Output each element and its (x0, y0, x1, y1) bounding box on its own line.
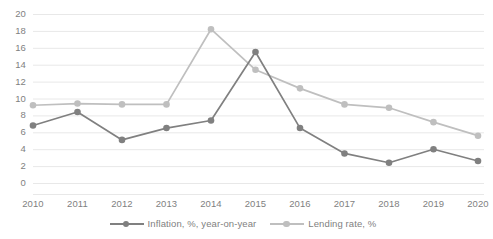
y-axis-tick-label: 14 (2, 60, 26, 70)
data-point[interactable] (252, 66, 259, 73)
y-axis-tick-label: 20 (2, 9, 26, 19)
data-point[interactable] (252, 49, 259, 56)
y-axis-tick-label: 0 (2, 178, 26, 188)
data-point[interactable] (163, 125, 170, 132)
data-point[interactable] (74, 109, 81, 116)
chart-legend: Inflation, %, year-on-yearLending rate, … (0, 218, 486, 229)
legend-label: Lending rate, % (308, 218, 376, 229)
data-point[interactable] (297, 125, 304, 132)
data-point[interactable] (341, 150, 348, 157)
x-axis-tick-label: 2013 (147, 199, 187, 209)
x-axis-tick-label: 2011 (58, 199, 98, 209)
y-axis-tick-label: 12 (2, 77, 26, 87)
x-axis-tick-label: 2020 (458, 199, 493, 209)
x-axis-tick-label: 2015 (236, 199, 276, 209)
y-axis-tick-label: 4 (2, 144, 26, 154)
data-point[interactable] (163, 101, 170, 108)
y-axis-tick-label: 8 (2, 110, 26, 120)
x-axis-tick-label: 2017 (325, 199, 365, 209)
legend-dot (283, 221, 290, 228)
data-point[interactable] (475, 158, 482, 165)
x-axis-tick-label: 2016 (280, 199, 320, 209)
data-point[interactable] (30, 102, 37, 109)
data-point[interactable] (297, 85, 304, 92)
series-layer (30, 26, 482, 166)
legend-item[interactable]: Lending rate, % (270, 218, 376, 229)
data-point[interactable] (430, 119, 437, 126)
data-point[interactable] (386, 159, 393, 166)
data-point[interactable] (208, 117, 215, 124)
legend-marker-icon (270, 219, 304, 229)
legend-dot (123, 221, 130, 228)
legend-label: Inflation, %, year-on-year (148, 218, 257, 229)
data-point[interactable] (119, 137, 126, 144)
legend-marker-icon (110, 219, 144, 229)
y-axis-tick-label: 16 (2, 43, 26, 53)
y-axis-tick-label: 6 (2, 127, 26, 137)
x-axis-tick-label: 2018 (369, 199, 409, 209)
data-point[interactable] (119, 101, 126, 108)
legend-item[interactable]: Inflation, %, year-on-year (110, 218, 257, 229)
data-point[interactable] (74, 100, 81, 107)
x-axis-tick-label: 2014 (191, 199, 231, 209)
x-axis-tick-label: 2010 (13, 199, 53, 209)
data-point[interactable] (475, 132, 482, 139)
x-axis-tick-label: 2019 (414, 199, 454, 209)
y-axis-tick-label: 18 (2, 26, 26, 36)
y-axis-tick-label: 10 (2, 94, 26, 104)
data-point[interactable] (30, 122, 37, 129)
data-point[interactable] (386, 105, 393, 112)
x-axis-tick-label: 2012 (102, 199, 142, 209)
data-point[interactable] (430, 146, 437, 153)
data-point[interactable] (341, 101, 348, 108)
y-axis-tick-label: 2 (2, 161, 26, 171)
data-point[interactable] (208, 26, 215, 33)
